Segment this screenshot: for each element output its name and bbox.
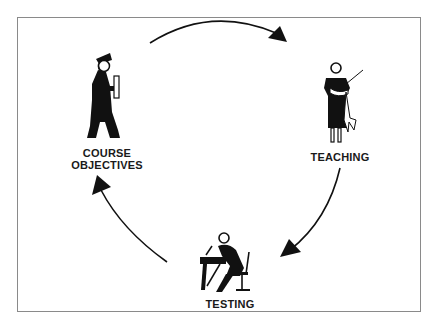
- node-label-testing: TESTING: [190, 298, 270, 310]
- teacher-with-pointer-icon: [324, 63, 363, 142]
- arrow-objectives-to-teaching: [150, 21, 287, 43]
- node-label-course-objectives: COURSE OBJECTIVES: [62, 147, 152, 171]
- node-label-teaching: TEACHING: [300, 151, 380, 163]
- arrow-testing-to-objectives: [92, 175, 167, 262]
- node-label-line1: COURSE: [62, 147, 152, 159]
- student-writing-at-desk-icon: [200, 233, 250, 292]
- arrow-teaching-to-testing: [280, 168, 340, 257]
- node-label-line2: OBJECTIVES: [62, 159, 152, 171]
- graduate-figure-icon: [87, 53, 120, 138]
